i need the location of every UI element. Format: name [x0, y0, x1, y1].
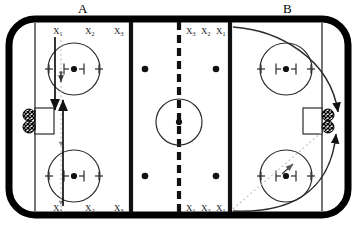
neutral-dot-left-bottom — [142, 173, 149, 180]
player-label-neutral-top-3: X1 — [216, 26, 226, 36]
player-label-zone-a-top-1: X1 — [53, 26, 63, 36]
player-label-neutral-bottom-3: X1 — [216, 203, 226, 213]
player-label-neutral-bottom-2: X2 — [201, 203, 211, 213]
zone-b-caption: B — [283, 1, 292, 17]
player-label-zone-a-bottom-3: X3 — [114, 203, 124, 213]
neutral-dot-right-bottom — [213, 173, 220, 180]
player-label-neutral-top-2: X2 — [201, 26, 211, 36]
player-label-zone-a-bottom-2: X2 — [85, 203, 95, 213]
player-label-neutral-bottom-1: X1 — [186, 203, 196, 213]
neutral-dot-right-top — [213, 66, 220, 73]
hockey-rink-diagram: A B X1 X2 X3 X1 X2 X3 X3 X2 X1 X1 X2 X1 — [0, 0, 357, 227]
player-label-neutral-top-1: X3 — [186, 26, 196, 36]
zone-a-caption: A — [78, 1, 88, 17]
center-ice-dot — [176, 119, 182, 125]
player-label-zone-a-top-3: X3 — [114, 26, 124, 36]
neutral-dot-left-top — [142, 66, 149, 73]
goal-right — [303, 108, 334, 134]
player-label-zone-a-top-2: X2 — [85, 26, 95, 36]
player-label-zone-a-bottom-1: X1 — [53, 203, 63, 213]
goal-left — [23, 108, 54, 134]
